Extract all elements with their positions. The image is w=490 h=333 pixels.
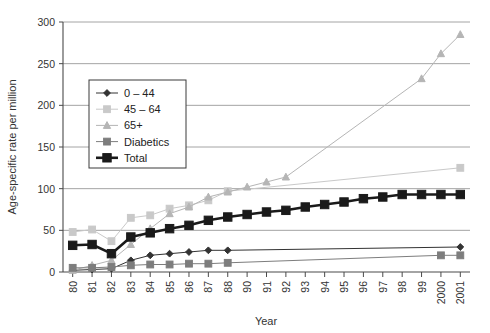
x-tick-label: 81 [86, 281, 98, 293]
data-point-marker [359, 194, 367, 202]
y-tick-labels: 050100150200250300 [37, 16, 55, 278]
x-tick-label: 93 [299, 281, 311, 293]
y-tick-label: 150 [37, 141, 55, 153]
x-tick-labels: 8081828384858687889091929394959697989920… [67, 281, 467, 305]
data-point-marker [205, 260, 212, 267]
data-point-marker [165, 224, 173, 232]
legend-label: 65+ [124, 119, 143, 131]
x-tick-label: 87 [202, 281, 214, 293]
y-tick-label: 200 [37, 99, 55, 111]
x-tick-label: 95 [338, 281, 350, 293]
data-point-marker [457, 252, 464, 259]
data-point-marker [147, 252, 154, 259]
data-point-marker [68, 241, 76, 249]
data-point-marker [88, 240, 96, 248]
data-point-marker [69, 229, 76, 236]
x-tick-label: 91 [261, 281, 273, 293]
x-tick-label: 84 [144, 281, 156, 293]
y-tick-label: 100 [37, 183, 55, 195]
data-point-marker [379, 193, 387, 201]
x-tick-label: 88 [222, 281, 234, 293]
legend-label: 0 – 44 [124, 87, 155, 99]
x-tick-label: 2000 [435, 281, 447, 305]
data-point-marker [69, 264, 76, 271]
legend-label: 45 – 64 [124, 103, 161, 115]
data-point-marker [89, 264, 96, 271]
x-tick-label: 99 [416, 281, 428, 293]
data-point-marker [340, 198, 348, 206]
data-point-marker [127, 214, 134, 221]
square-bold-icon [103, 154, 111, 162]
data-point-marker [166, 250, 173, 257]
x-tick-label: 2001 [454, 281, 466, 305]
series-diabetics [69, 252, 463, 271]
data-point-marker [457, 244, 464, 251]
legend-label: Diabetics [124, 136, 170, 148]
data-point-marker [147, 212, 154, 219]
x-tick-marks [73, 272, 461, 277]
data-point-marker [243, 210, 251, 218]
data-point-marker [108, 238, 115, 245]
data-point-marker [282, 206, 290, 214]
data-point-marker [282, 173, 289, 180]
data-point-marker [186, 260, 193, 267]
chart-container: Age-specific rate per million 0501001502… [0, 0, 490, 333]
data-point-marker [146, 229, 154, 237]
data-point-marker [107, 249, 115, 257]
data-point-marker [186, 249, 193, 256]
line-chart: Age-specific rate per million 0501001502… [0, 0, 490, 333]
data-point-marker [185, 221, 193, 229]
data-point-marker [89, 226, 96, 233]
x-axis-title: Year [255, 315, 278, 327]
square-gray-icon [104, 138, 111, 145]
data-point-marker [262, 208, 270, 216]
data-point-marker [224, 259, 231, 266]
x-tick-label: 85 [164, 281, 176, 293]
data-point-marker [398, 190, 406, 198]
data-point-marker [166, 261, 173, 268]
data-point-marker [224, 213, 232, 221]
data-point-marker [457, 164, 464, 171]
x-tick-label: 96 [357, 281, 369, 293]
data-point-marker [108, 264, 115, 271]
data-point-marker [224, 247, 231, 254]
x-tick-label: 98 [396, 281, 408, 293]
data-point-marker [457, 31, 464, 38]
x-tick-label: 92 [280, 281, 292, 293]
legend-label: Total [124, 152, 147, 164]
y-tick-label: 0 [49, 266, 55, 278]
data-point-marker [320, 200, 328, 208]
square-light-icon [104, 106, 111, 113]
data-point-marker [127, 241, 134, 248]
x-tick-label: 80 [67, 281, 79, 293]
x-tick-label: 97 [377, 281, 389, 293]
data-point-marker [456, 190, 464, 198]
data-point-marker [437, 190, 445, 198]
data-point-marker [204, 216, 212, 224]
x-tick-label: 94 [319, 281, 331, 293]
x-tick-label: 90 [241, 281, 253, 293]
data-point-marker [301, 203, 309, 211]
x-tick-label: 83 [125, 281, 137, 293]
data-point-marker [127, 233, 135, 241]
data-point-marker [417, 190, 425, 198]
data-point-marker [147, 261, 154, 268]
x-tick-label: 86 [183, 281, 195, 293]
y-axis-title: Age-specific rate per million [6, 79, 18, 214]
data-point-marker [127, 262, 134, 269]
data-point-marker [205, 247, 212, 254]
y-tick-label: 250 [37, 58, 55, 70]
data-point-marker [438, 252, 445, 259]
y-tick-label: 300 [37, 16, 55, 28]
x-tick-label: 82 [105, 281, 117, 293]
y-tick-label: 50 [43, 224, 55, 236]
